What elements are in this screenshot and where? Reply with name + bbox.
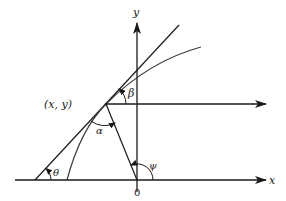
radial-line — [106, 104, 137, 180]
origin-label: 0 — [134, 187, 140, 198]
y-axis-label: y — [132, 6, 140, 19]
psi-label: ψ — [149, 160, 157, 171]
alpha-arc — [91, 121, 115, 126]
x-axis-label: x — [269, 174, 276, 187]
beta-label: β — [127, 87, 134, 100]
diagram-canvas: y x 0 (x, y) θ α β ψ — [0, 0, 286, 201]
curve — [67, 47, 201, 180]
alpha-label: α — [96, 125, 103, 136]
point-marker — [105, 103, 107, 105]
point-label: (x, y) — [44, 98, 72, 111]
theta-label: θ — [53, 167, 59, 178]
theta-arc — [46, 169, 51, 181]
